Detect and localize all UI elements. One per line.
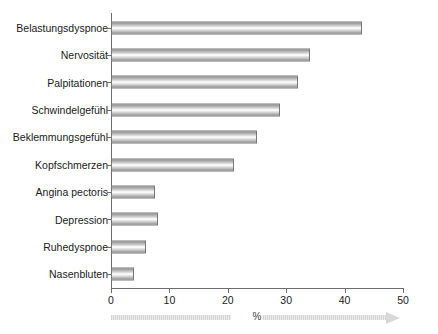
y-axis-label: Ruhedyspnoe bbox=[0, 242, 108, 253]
bar-row bbox=[111, 41, 403, 68]
y-axis-tick bbox=[107, 82, 111, 83]
bar bbox=[111, 186, 155, 199]
y-axis-tick bbox=[107, 192, 111, 193]
y-axis-tick bbox=[107, 247, 111, 248]
plot-area bbox=[111, 14, 403, 288]
y-axis-label: Depression bbox=[0, 214, 108, 225]
x-axis-tick bbox=[403, 288, 404, 293]
bar-wrapper bbox=[111, 49, 310, 62]
y-axis-tick bbox=[107, 219, 111, 220]
bar bbox=[111, 21, 362, 34]
y-axis-labels: BelastungsdyspnoeNervositätPalpitationen… bbox=[0, 14, 108, 288]
bar-wrapper bbox=[111, 21, 362, 34]
x-axis-tick-label: 40 bbox=[339, 294, 351, 306]
arrow-shaft-right bbox=[263, 315, 388, 320]
bar bbox=[111, 131, 257, 144]
bar bbox=[111, 158, 234, 171]
y-axis-tick bbox=[107, 55, 111, 56]
y-axis-tick bbox=[107, 110, 111, 111]
x-axis-tick bbox=[345, 288, 346, 293]
x-axis-tick bbox=[286, 288, 287, 293]
arrow-shaft-left bbox=[111, 315, 231, 320]
x-axis-tick-label: 50 bbox=[397, 294, 409, 306]
bar bbox=[111, 213, 158, 226]
x-axis-line bbox=[111, 288, 404, 289]
bar-wrapper bbox=[111, 240, 146, 253]
bar-wrapper bbox=[111, 131, 257, 144]
x-axis-tick bbox=[169, 288, 170, 293]
bar-row bbox=[111, 206, 403, 233]
arrow-head-icon bbox=[386, 312, 400, 324]
bar bbox=[111, 240, 146, 253]
bar-wrapper bbox=[111, 186, 155, 199]
y-axis-label: Kopfschmerzen bbox=[0, 159, 108, 170]
y-axis-tick bbox=[107, 274, 111, 275]
x-axis-tick-label: 30 bbox=[280, 294, 292, 306]
y-axis-label: Nasenbluten bbox=[0, 269, 108, 280]
bar bbox=[111, 103, 280, 116]
bar-row bbox=[111, 124, 403, 151]
y-axis-label: Schwindelgefühl bbox=[0, 105, 108, 116]
bar-row bbox=[111, 69, 403, 96]
y-axis-label: Nervosität bbox=[0, 50, 108, 61]
bar-row bbox=[111, 178, 403, 205]
x-axis-tick-label: 20 bbox=[222, 294, 234, 306]
y-axis-tick bbox=[107, 137, 111, 138]
bar-row bbox=[111, 233, 403, 260]
bar-wrapper bbox=[111, 213, 158, 226]
x-axis-arrow: % bbox=[111, 311, 404, 324]
bar-chart-figure: BelastungsdyspnoeNervositätPalpitationen… bbox=[0, 0, 438, 334]
x-axis-tick bbox=[228, 288, 229, 293]
x-axis-tick-label: 10 bbox=[164, 294, 176, 306]
y-axis-label: Belastungsdyspnoe bbox=[0, 22, 108, 33]
y-axis-label: Palpitationen bbox=[0, 77, 108, 88]
x-axis-tick bbox=[111, 288, 112, 293]
y-axis-tick bbox=[107, 165, 111, 166]
bar-row bbox=[111, 151, 403, 178]
bar bbox=[111, 268, 134, 281]
bar-wrapper bbox=[111, 76, 298, 89]
bar bbox=[111, 49, 310, 62]
bar-wrapper bbox=[111, 158, 234, 171]
bar bbox=[111, 76, 298, 89]
bar-wrapper bbox=[111, 268, 134, 281]
x-axis-tick-label: 0 bbox=[108, 294, 114, 306]
bar-row bbox=[111, 261, 403, 288]
y-axis-label: Beklemmungsgefühl bbox=[0, 132, 108, 143]
bar-wrapper bbox=[111, 103, 280, 116]
bar-row bbox=[111, 14, 403, 41]
bar-row bbox=[111, 96, 403, 123]
y-axis-label: Angina pectoris bbox=[0, 187, 108, 198]
y-axis-tick bbox=[107, 28, 111, 29]
